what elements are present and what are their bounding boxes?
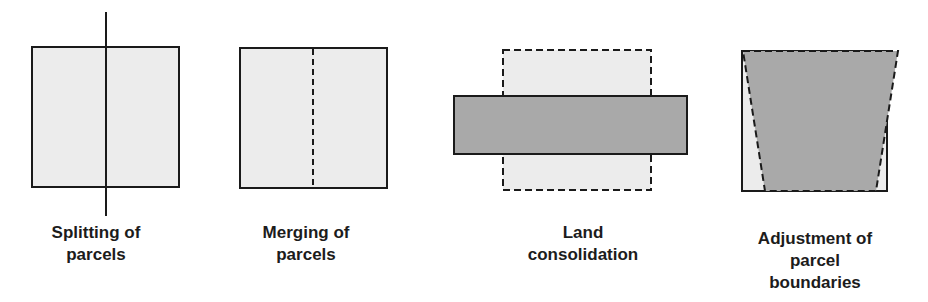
- label-consolidation: Land consolidation: [528, 222, 639, 266]
- label-adjustment: Adjustment of parcel boundaries: [758, 228, 872, 294]
- consolidation-figure: [454, 50, 687, 190]
- consolidated-parcel: [454, 96, 687, 154]
- label-merging: Merging of parcels: [263, 222, 350, 266]
- adjusted-parcel-trapezoid: [743, 51, 898, 191]
- label-splitting: Splitting of parcels: [52, 222, 141, 266]
- adjustment-figure: [742, 51, 898, 191]
- splitting-figure: [32, 12, 179, 216]
- merging-figure: [240, 48, 387, 188]
